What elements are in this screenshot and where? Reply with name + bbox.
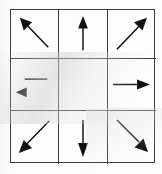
arrow-up-left-icon: [11, 10, 58, 58]
grid-cell-row3-col1: [11, 111, 59, 164]
arrow-down-right-icon: [108, 111, 156, 164]
arrow-up-icon: [59, 10, 107, 58]
arrow-up-right-icon: [108, 10, 156, 58]
grid-cell-row3-col3: [108, 111, 156, 164]
grid-cell-row3-col2: [59, 111, 108, 164]
arrow-right-icon: [108, 59, 156, 110]
figure-root: [0, 0, 162, 174]
grid-cell-row1-col1: [11, 10, 59, 59]
grid-cell-row2-col3: [108, 59, 156, 111]
empty-cell-marker: [59, 59, 107, 110]
arrow-down-icon: [59, 111, 107, 164]
grid-cell-row2-col1: [11, 59, 59, 111]
arrow-left-icon: [11, 59, 58, 110]
grid-cell-row1-col2: [59, 10, 108, 59]
grid-cell-row1-col3: [108, 10, 156, 59]
grid-cell-row2-col2: [59, 59, 108, 111]
arrow-grid: [10, 9, 155, 163]
arrow-down-left-icon: [11, 111, 58, 164]
